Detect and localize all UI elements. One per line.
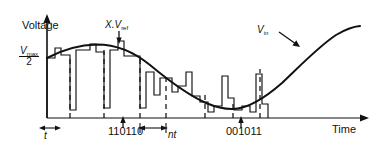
x-axis-arrowhead <box>360 115 369 122</box>
reference-voltage-subscript: ref <box>121 25 128 31</box>
vmax-subscript: max <box>27 51 38 57</box>
reference-voltage-main: X.V <box>105 19 121 30</box>
vin-pointer <box>279 32 300 47</box>
interval-long-label: nt <box>168 130 176 140</box>
y-axis-label: Voltage <box>22 20 59 31</box>
diagram-canvas: Voltage Time Vmax 2 X.Vref Vin 110110 00… <box>0 0 378 152</box>
input-voltage-label: Vin <box>257 25 268 35</box>
xvref-pointer <box>116 31 121 44</box>
y-axis-tick-label: Vmax 2 <box>19 46 39 67</box>
interval-short-measure <box>39 126 61 131</box>
vmax-numerator: Vmax <box>19 46 39 57</box>
interval-short-label: t <box>44 131 47 141</box>
sample-boundary-markers <box>70 46 260 118</box>
pwm-pulse-train <box>47 41 268 118</box>
input-voltage-subscript: in <box>264 30 269 36</box>
vin-sine-curve <box>47 26 360 109</box>
reference-voltage-label: X.Vref <box>105 20 128 30</box>
binary-code-right: 001011 <box>226 126 262 137</box>
axes-group <box>43 14 369 121</box>
vmax-denominator: 2 <box>19 57 39 67</box>
input-voltage-main: V <box>257 24 264 35</box>
x-axis-label: Time <box>332 124 356 135</box>
binary-code-left: 110110 <box>108 126 143 137</box>
